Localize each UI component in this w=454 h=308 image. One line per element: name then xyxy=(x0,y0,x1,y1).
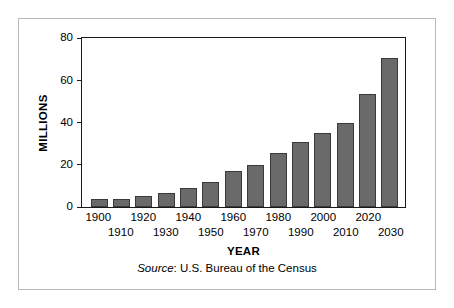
bar-slot xyxy=(379,38,401,207)
bar[interactable] xyxy=(359,94,376,207)
x-axis-tick-label: 2020 xyxy=(355,212,381,224)
bar[interactable] xyxy=(314,133,331,207)
x-axis-tick-label: 1920 xyxy=(130,212,156,224)
x-axis-tick-label: 1900 xyxy=(85,212,111,224)
bar-slot xyxy=(110,38,132,207)
x-axis-tick: 2010 xyxy=(335,211,358,243)
bar-slot xyxy=(334,38,356,207)
bar[interactable] xyxy=(158,193,175,207)
bar-slot xyxy=(245,38,267,207)
chart-figure: MILLIONS 020406080 190019101920193019401… xyxy=(18,18,436,290)
bar[interactable] xyxy=(180,188,197,207)
x-axis-tick: 1930 xyxy=(155,211,178,243)
x-axis-tick: 1960 xyxy=(222,211,245,243)
bar-slot xyxy=(177,38,199,207)
x-axis-tick-label: 1970 xyxy=(243,227,269,239)
y-axis-title: MILLIONS xyxy=(35,37,51,208)
x-axis-tick-label: 1980 xyxy=(265,212,291,224)
x-axis-tick-label: 2030 xyxy=(378,227,404,239)
x-axis-tick: 1980 xyxy=(267,211,290,243)
x-axis-tick: 2020 xyxy=(357,211,380,243)
x-axis-tick-label: 1910 xyxy=(108,227,134,239)
bar-series xyxy=(82,38,405,207)
bar[interactable] xyxy=(337,123,354,208)
y-axis-tick-label: 40 xyxy=(60,117,77,129)
bar-slot xyxy=(356,38,378,207)
x-axis-tick-label: 1960 xyxy=(220,212,246,224)
x-axis-tick: 1950 xyxy=(200,211,223,243)
bar[interactable] xyxy=(135,196,152,207)
bar-slot xyxy=(200,38,222,207)
y-axis-tick-label: 20 xyxy=(60,159,77,171)
x-axis-tick: 1900 xyxy=(87,211,110,243)
y-axis-tick-label: 80 xyxy=(60,32,77,44)
bar-slot xyxy=(155,38,177,207)
x-axis-tick: 1910 xyxy=(110,211,133,243)
x-axis-tick: 1990 xyxy=(290,211,313,243)
y-axis-title-text: MILLIONS xyxy=(37,94,49,151)
x-axis-tick-label: 1990 xyxy=(288,227,314,239)
x-axis-tick-label: 1950 xyxy=(198,227,224,239)
source-text: : U.S. Bureau of the Census xyxy=(174,262,317,274)
x-axis-tick-label: 1930 xyxy=(153,227,179,239)
bar-slot xyxy=(312,38,334,207)
y-axis-tick-label: 0 xyxy=(67,201,77,213)
x-axis-tick: 1920 xyxy=(132,211,155,243)
bar[interactable] xyxy=(292,142,309,207)
bar[interactable] xyxy=(91,199,108,207)
bar-slot xyxy=(267,38,289,207)
bar[interactable] xyxy=(113,199,130,207)
bar[interactable] xyxy=(270,153,287,207)
x-axis-tick: 2030 xyxy=(380,211,403,243)
x-axis-tick-labels: 1900191019201930194019501960197019801990… xyxy=(81,211,406,243)
bar[interactable] xyxy=(247,165,264,207)
bar-slot xyxy=(133,38,155,207)
x-axis-tick-label: 2000 xyxy=(310,212,336,224)
x-axis-tick: 1940 xyxy=(177,211,200,243)
bar-slot xyxy=(222,38,244,207)
bar[interactable] xyxy=(381,58,398,207)
source-label: Source xyxy=(137,262,173,274)
x-axis-title: YEAR xyxy=(81,245,406,257)
x-axis-tick: 2000 xyxy=(312,211,335,243)
bar[interactable] xyxy=(225,171,242,207)
source-caption: Source: U.S. Bureau of the Census xyxy=(19,262,435,274)
plot-area: 020406080 xyxy=(81,37,406,208)
bar[interactable] xyxy=(202,182,219,207)
bar-slot xyxy=(88,38,110,207)
x-axis-tick-label: 2010 xyxy=(333,227,359,239)
bar-slot xyxy=(289,38,311,207)
x-axis-tick-label: 1940 xyxy=(175,212,201,224)
x-axis-tick: 1970 xyxy=(245,211,268,243)
y-axis-tick-label: 60 xyxy=(60,75,77,87)
